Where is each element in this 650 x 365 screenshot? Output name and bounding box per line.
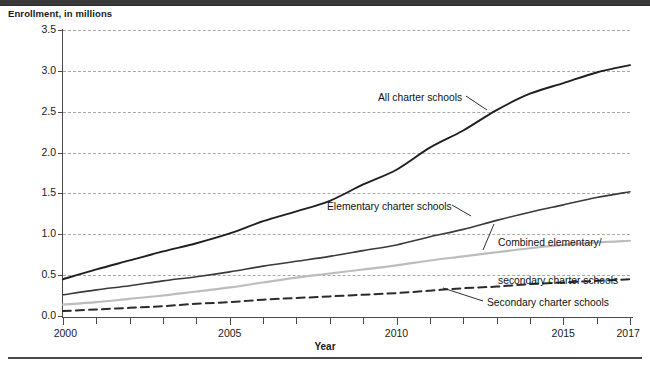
annotation-combined-line1: Combined elementary/ [498, 237, 618, 250]
bottom-divider-rule [8, 357, 642, 359]
series-lines-group [0, 0, 650, 365]
annotation-combined-charter-schools: Combined elementary/ secondary charter s… [498, 212, 618, 300]
annotation-secondary-charter-schools: Secondary charter schools [487, 297, 609, 310]
leader-line-secondary [443, 288, 483, 301]
leader-line-combined [483, 224, 494, 250]
annotation-combined-line2: secondary charter schools [498, 275, 618, 288]
annotation-elementary-charter-schools: Elementary charter schools [327, 201, 452, 214]
leader-line-all [466, 96, 487, 110]
leader-line-elementary [452, 205, 471, 216]
x-axis-title: Year [0, 341, 650, 352]
annotation-all-charter-schools: All charter schools [378, 92, 462, 105]
